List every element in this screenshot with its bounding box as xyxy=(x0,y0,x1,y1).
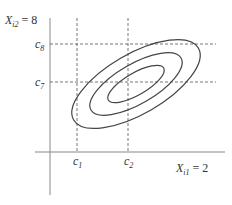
y-tick-c7: c7 xyxy=(35,76,44,91)
x-axis-label: Xi1 = 2 xyxy=(176,162,208,177)
y-axis-label: Xi2 = 8 xyxy=(5,14,37,29)
contour-middle xyxy=(81,41,191,128)
contour-inner xyxy=(103,58,169,109)
x-tick-c1: c1 xyxy=(73,155,82,170)
contour-outer xyxy=(59,22,214,146)
x-tick-c2: c2 xyxy=(124,155,133,170)
y-tick-c8: c8 xyxy=(35,38,44,53)
